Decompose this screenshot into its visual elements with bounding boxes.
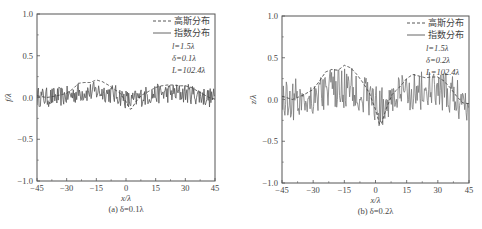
x-axis-label: x/λ [370, 195, 381, 205]
x-tick-label: −15 [90, 183, 103, 193]
y-tick-label: −1.0 [18, 176, 33, 186]
x-tick-label: 45 [465, 185, 474, 195]
y-tick-label: 0.5 [22, 51, 33, 61]
x-tick-label: −15 [338, 185, 351, 195]
x-tick-label: −30 [307, 185, 320, 195]
param-label: δ=0.2λ [426, 55, 450, 65]
y-tick-label: 1.0 [267, 11, 278, 21]
legend-label-gaussian: 高斯分布 [428, 17, 464, 28]
y-tick-label: 0.0 [22, 93, 33, 103]
x-tick-label: 0 [373, 185, 377, 195]
y-tick-label: −1.0 [263, 178, 278, 188]
y-tick-label: −0.5 [18, 134, 33, 144]
y-tick-label: 0.0 [267, 95, 278, 105]
x-tick-label: 30 [434, 185, 443, 195]
y-tick-label: 1.0 [22, 9, 33, 19]
y-tick-label: 0.5 [267, 53, 278, 63]
x-tick-label: 45 [211, 183, 220, 193]
panel-caption: (a) δ=0.1λ [108, 204, 144, 214]
chart-panel-a: −45−30−1501530451.00.50.0−0.5−1.0x/λf/λ(… [3, 9, 219, 214]
x-tick-label: 30 [181, 183, 190, 193]
x-tick-label: 15 [402, 185, 411, 195]
exponential-profile-line [37, 82, 215, 108]
chart-figure: −45−30−1501530451.00.50.0−0.5−1.0x/λf/λ(… [0, 0, 482, 229]
x-tick-label: −30 [60, 183, 73, 193]
chart-panel-b: −45−30−1501530451.00.50.0−0.5−1.0x/λz/λ(… [248, 11, 473, 216]
param-label: L=102.4λ [425, 67, 460, 77]
y-tick-label: −0.5 [263, 136, 278, 146]
param-label: L=102.4λ [171, 65, 206, 75]
panel-caption: (b) δ=0.2λ [358, 206, 394, 216]
y-axis-label: f/λ [3, 93, 13, 102]
y-axis-label: z/λ [248, 95, 258, 106]
param-label: l=1.5λ [426, 43, 449, 53]
x-tick-label: 0 [124, 183, 128, 193]
param-label: δ=0.1λ [172, 53, 196, 63]
legend-label-exponential: 指数分布 [174, 27, 210, 38]
param-label: l=1.5λ [172, 41, 195, 51]
legend: 高斯分布指数分布 [407, 17, 464, 40]
legend-label-exponential: 指数分布 [428, 29, 464, 40]
legend: 高斯分布指数分布 [153, 15, 210, 38]
legend-label-gaussian: 高斯分布 [174, 15, 210, 26]
x-axis-label: x/λ [120, 193, 131, 203]
x-tick-label: 15 [151, 183, 160, 193]
